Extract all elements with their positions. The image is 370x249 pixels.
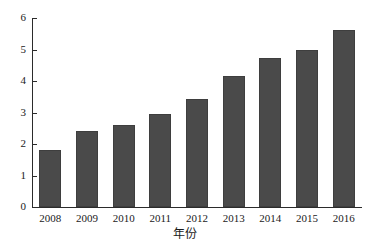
bar[interactable] bbox=[259, 58, 281, 207]
x-axis-title: 年份 bbox=[0, 228, 370, 241]
bar[interactable] bbox=[223, 76, 245, 207]
y-axis-tick-label: 5 bbox=[4, 44, 26, 55]
x-axis-tick-label: 2016 bbox=[321, 212, 367, 224]
y-axis-tick-label: 0 bbox=[4, 201, 26, 212]
bar[interactable] bbox=[113, 125, 135, 207]
bars-group bbox=[32, 18, 362, 207]
y-axis-tick-label: 1 bbox=[4, 170, 26, 181]
y-axis-tick-label: 2 bbox=[4, 138, 26, 149]
y-axis-tick bbox=[32, 207, 37, 208]
bar[interactable] bbox=[296, 50, 318, 207]
y-axis-tick-label: 4 bbox=[4, 75, 26, 86]
bar[interactable] bbox=[333, 30, 355, 207]
y-axis-tick-label: 6 bbox=[4, 12, 26, 23]
x-axis-line bbox=[32, 207, 362, 208]
bar[interactable] bbox=[76, 131, 98, 207]
bar[interactable] bbox=[186, 99, 208, 207]
bar[interactable] bbox=[149, 114, 171, 207]
bar-chart: 0123456 20082009201020112012201320142015… bbox=[0, 0, 370, 249]
y-axis-tick-label: 3 bbox=[4, 107, 26, 118]
bar[interactable] bbox=[39, 150, 61, 207]
